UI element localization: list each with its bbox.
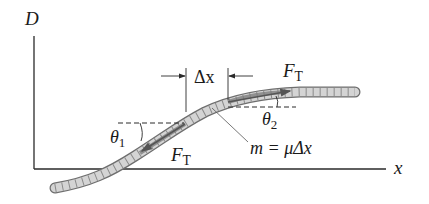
tension-bottom-symbol: F	[171, 144, 183, 165]
mass-leader-line	[212, 108, 248, 142]
mass-equation-label: m = μΔx	[250, 139, 312, 157]
tension-label-top: FT	[283, 61, 303, 84]
theta1-symbol: θ	[110, 127, 119, 147]
tension-top-symbol: F	[283, 60, 295, 81]
tension-bottom-subscript: T	[183, 153, 191, 168]
tension-label-bottom: FT	[171, 145, 191, 168]
delta-x-label: Δx	[194, 68, 215, 86]
wave-string-diagram	[0, 0, 429, 204]
theta1-label: θ1	[110, 128, 125, 150]
theta1-subscript: 1	[119, 135, 125, 150]
angle-arc-theta1	[140, 123, 142, 141]
delta-x-text: Δx	[194, 67, 215, 87]
theta2-label: θ2	[262, 110, 277, 132]
y-axis-label: D	[25, 9, 39, 28]
tension-top-subscript: T	[295, 69, 303, 84]
theta2-symbol: θ	[262, 109, 271, 129]
theta2-subscript: 2	[271, 117, 277, 132]
x-axis-label: x	[394, 158, 402, 177]
